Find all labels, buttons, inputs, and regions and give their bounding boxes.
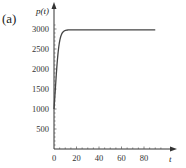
y-axis-arrow-icon <box>52 2 57 9</box>
logistic-growth-chart: 02040608050010001500200025003000 p(t) t <box>0 0 186 168</box>
y-tick-label: 2500 <box>32 44 49 54</box>
x-tick-label: 60 <box>117 153 126 163</box>
axes <box>52 2 178 152</box>
x-axis-label: t <box>169 154 172 164</box>
x-tick-label: 20 <box>72 153 81 163</box>
x-tick-label: 80 <box>140 153 149 163</box>
y-tick-label: 1000 <box>32 104 49 114</box>
y-tick-label: 2000 <box>32 64 49 74</box>
x-axis-arrow-icon <box>170 147 177 152</box>
y-axis-label: p(t) <box>35 6 49 16</box>
ticks: 02040608050010001500200025003000 <box>32 24 161 163</box>
y-tick-label: 500 <box>36 124 49 134</box>
curve-p-of-t <box>54 30 155 109</box>
y-tick-label: 1500 <box>32 84 49 94</box>
x-tick-label: 0 <box>52 153 56 163</box>
y-tick-label: 3000 <box>32 24 49 34</box>
x-tick-label: 40 <box>95 153 104 163</box>
